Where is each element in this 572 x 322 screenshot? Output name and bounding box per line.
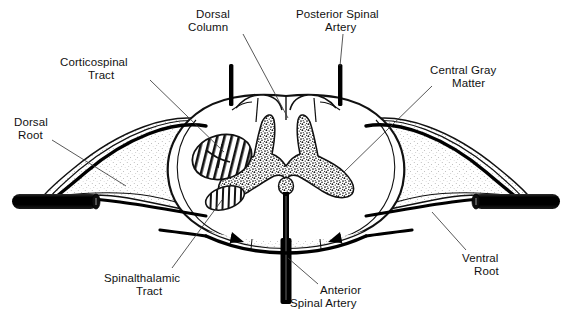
left-spinal-nerve-trunk: [12, 194, 98, 209]
central-canal: [279, 178, 294, 195]
right-spinal-nerve-trunk: [474, 194, 560, 209]
spinal-cord-diagram: Dorsal Column Posterior Spinal Artery Co…: [0, 0, 572, 322]
